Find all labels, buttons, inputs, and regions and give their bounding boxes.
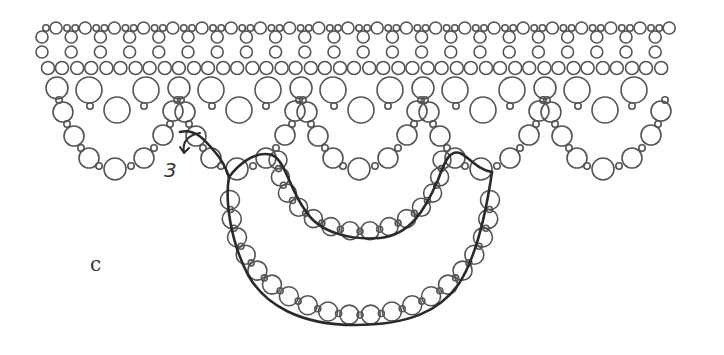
bead [270,46,282,58]
bead [392,62,405,75]
bead [500,148,520,168]
bead [328,31,340,43]
bead [211,31,223,43]
bead [560,25,566,31]
bead [357,31,369,43]
bead [151,145,157,151]
bead [592,97,618,123]
bead [377,62,390,75]
bead [629,103,635,109]
bead [416,46,428,58]
bead [510,25,516,31]
bead [462,163,468,169]
bead [445,31,457,43]
bead [452,25,458,31]
bead [649,31,661,43]
bead [480,62,493,75]
bead [334,62,347,75]
bead [250,163,256,169]
bead [122,25,128,31]
bead [56,62,69,75]
bead [297,25,303,31]
bead [620,46,632,58]
bead [507,103,513,109]
bead [313,22,325,34]
bead [43,25,49,31]
bead [172,62,185,75]
bead [386,31,398,43]
bead [36,31,48,43]
bead [318,62,331,75]
bead [342,22,354,34]
bead [509,62,522,75]
step-number-label: 3 [164,158,177,182]
bead [663,22,675,34]
bead [562,31,574,43]
bead [620,31,632,43]
bead [523,62,536,75]
bead [422,25,428,31]
bead [104,158,126,180]
beadwork-diagram [0,0,724,355]
bead [36,46,48,58]
bead-pattern [36,22,675,180]
bead [175,102,195,122]
bead [655,62,668,75]
bead [255,77,281,103]
bead [275,62,288,75]
bead [128,163,134,169]
bead [364,25,370,31]
bead [114,62,127,75]
bead [541,102,561,122]
bead [130,25,136,31]
bead [532,46,544,58]
bead [412,77,434,99]
bead [124,46,136,58]
bead [502,25,508,31]
bead [263,103,269,109]
bead [517,22,529,34]
bead [129,62,142,75]
bead [627,25,633,31]
bead [189,25,195,31]
bead [385,25,391,31]
bead [226,97,252,123]
bead [616,163,622,169]
bead [138,22,150,34]
bead [306,25,312,31]
bead [421,62,434,75]
bead [124,31,136,43]
bead [64,126,84,146]
bead [576,22,588,34]
bead [503,31,515,43]
bead [53,102,73,122]
bead [46,77,68,99]
bead [217,62,230,75]
bead [539,25,545,31]
bead [167,22,179,34]
bead [640,62,653,75]
bead [598,25,604,31]
bead [270,31,282,43]
bead [284,22,296,34]
bead [188,62,201,75]
bead [134,148,154,168]
bead [406,62,419,75]
bead [621,77,647,103]
bead [299,46,311,58]
bead [335,25,341,31]
bead [356,25,362,31]
bead [649,46,661,58]
bead [385,103,391,109]
thread-inner-loop [229,152,492,238]
bead [372,163,378,169]
bead [443,25,449,31]
bead [247,25,253,31]
bead [435,62,448,75]
bead [96,163,102,169]
bead [416,31,428,43]
bead [65,31,77,43]
bead [246,62,259,75]
bead [481,25,487,31]
bead [160,25,166,31]
